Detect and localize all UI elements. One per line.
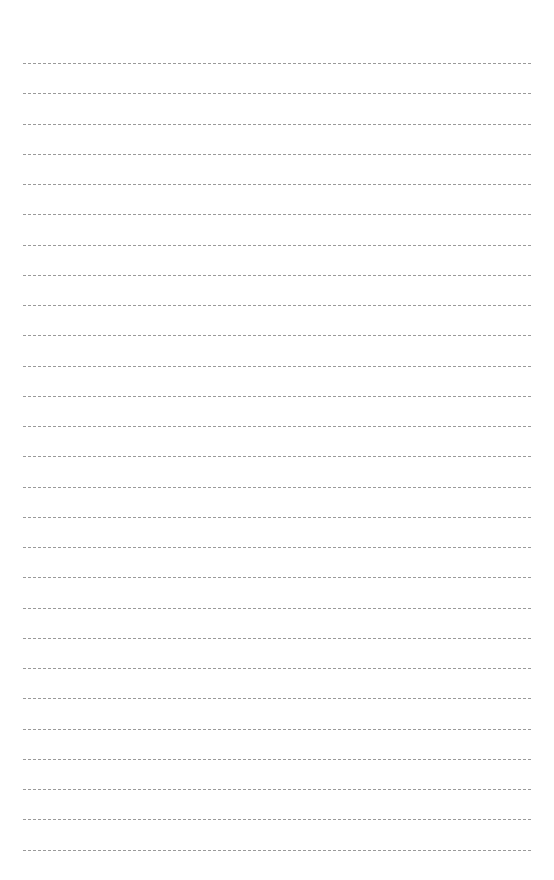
ruled-line xyxy=(23,275,531,276)
ruled-line xyxy=(23,729,531,730)
ruled-line xyxy=(23,668,531,669)
ruled-line xyxy=(23,124,531,125)
ruled-line xyxy=(23,93,531,94)
ruled-line xyxy=(23,154,531,155)
ruled-line xyxy=(23,608,531,609)
ruled-line xyxy=(23,638,531,639)
ruled-line xyxy=(23,577,531,578)
ruled-line xyxy=(23,335,531,336)
ruled-line xyxy=(23,547,531,548)
ruled-line xyxy=(23,63,531,64)
ruled-line xyxy=(23,789,531,790)
ruled-line xyxy=(23,850,531,851)
ruled-line xyxy=(23,396,531,397)
ruled-line xyxy=(23,456,531,457)
ruled-line xyxy=(23,245,531,246)
ruled-line xyxy=(23,819,531,820)
ruled-line xyxy=(23,184,531,185)
ruled-line xyxy=(23,487,531,488)
ruled-line xyxy=(23,214,531,215)
ruled-line xyxy=(23,517,531,518)
ruled-line xyxy=(23,366,531,367)
ruled-line xyxy=(23,759,531,760)
ruled-line xyxy=(23,305,531,306)
ruled-line xyxy=(23,698,531,699)
ruled-line xyxy=(23,426,531,427)
